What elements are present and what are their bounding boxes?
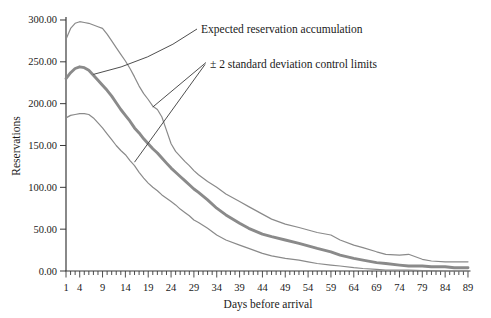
x-tick-label: 24 [166,282,177,293]
x-tick-label: 54 [303,282,314,293]
chart-canvas: 14914192429343944495459646974798489 0.00… [0,0,491,318]
y-tick-label: 300.00 [28,14,57,25]
x-tick-label: 59 [326,282,337,293]
x-tick-label: 29 [189,282,200,293]
x-tick-label: 44 [257,282,268,293]
x-tick-label: 1 [63,282,68,293]
x-tick-label: 64 [349,282,360,293]
x-tick-label: 19 [143,282,154,293]
x-axis-ticks: 14914192429343944495459646974798489 [63,271,473,293]
y-tick-label: 0.00 [39,266,57,277]
x-tick-label: 14 [120,282,131,293]
x-tick-label: 4 [77,282,83,293]
x-tick-label: 49 [280,282,291,293]
y-tick-label: 50.00 [33,224,57,235]
x-tick-label: 69 [371,282,382,293]
y-tick-label: 200.00 [28,98,57,109]
x-tick-label: 79 [417,282,428,293]
pointer-stddev-lower [135,65,206,163]
x-tick-label: 89 [463,282,474,293]
y-tick-label: 100.00 [28,182,57,193]
y-tick-label: 150.00 [28,140,57,151]
y-axis-ticks: 0.0050.00100.00150.00200.00250.00300.00 [28,14,66,276]
y-tick-label: 250.00 [28,56,57,67]
annotation-stddev-label: ± 2 standard deviation control limits [210,58,377,70]
pointer-expected [93,29,197,74]
axes [65,17,470,271]
x-tick-label: 84 [440,282,451,293]
reservation-control-chart: 14914192429343944495459646974798489 0.00… [0,0,491,318]
x-tick-label: 74 [394,282,405,293]
curve-expected-accumulation [66,67,468,268]
x-tick-label: 9 [100,282,105,293]
x-axis-title: Days before arrival [224,298,313,311]
y-axis-title: Reservations [10,116,22,176]
curve-lower-control-limit [66,114,468,271]
x-tick-label: 39 [234,282,245,293]
annotation-expected-label: Expected reservation accumulation [201,23,363,36]
x-tick-label: 34 [211,282,222,293]
